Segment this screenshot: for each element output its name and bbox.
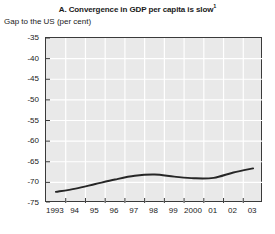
x-axis-tick-label: 1993: [46, 206, 64, 215]
x-axis-tick-label: 95: [90, 206, 99, 215]
x-axis-tick-label: 99: [169, 206, 178, 215]
x-axis-tick-label: 03: [248, 206, 257, 215]
x-axis-tick-label: 94: [70, 206, 79, 215]
x-axis-tick-label: 96: [110, 206, 119, 215]
x-axis-tick-label: 2000: [184, 206, 202, 215]
x-axis-tick-label: 02: [228, 206, 237, 215]
x-axis-tick-label: 98: [149, 206, 158, 215]
x-axis-labels: 19939495969798992000010203: [0, 0, 275, 234]
chart-container: A. Convergence in GDP per capita is slow…: [0, 0, 275, 234]
x-axis-tick-label: 97: [129, 206, 138, 215]
x-axis-tick-label: 01: [208, 206, 217, 215]
